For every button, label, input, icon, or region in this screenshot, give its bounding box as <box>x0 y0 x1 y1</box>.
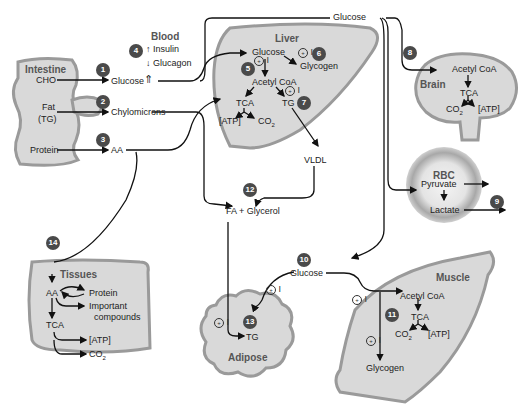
muscle-acetyl-coa: Acetyl CoA <box>400 292 445 301</box>
top-glucose-label: Glucose <box>333 13 366 22</box>
step-badge-11: 11 <box>385 308 399 322</box>
insulin-marker-muscle: + I <box>366 336 381 346</box>
intestine-label: Intestine <box>25 65 66 75</box>
tissues-tca: TCA <box>46 321 64 330</box>
liver-glycogen: Glycogen <box>300 62 338 71</box>
glucose-blood-label: Glucose <box>111 77 144 86</box>
cho-label: CHO <box>36 76 56 85</box>
step-badge-5: 5 <box>241 62 255 76</box>
plus-circle-icon: + <box>366 336 376 346</box>
up-arrow-icon: ↑ <box>146 44 151 54</box>
plus-circle-icon: + <box>214 318 224 328</box>
tissues-label: Tissues <box>60 270 97 280</box>
adipose-label: Adipose <box>228 353 267 363</box>
step-badge-6: 6 <box>312 47 326 61</box>
fa-glycerol-label: FA + Glycerol <box>226 207 280 216</box>
liver-atp: [ATP] <box>219 117 241 126</box>
tissues-co2: CO2 <box>89 350 106 361</box>
brain-tca: TCA <box>460 89 478 98</box>
insulin-marker-6: + I <box>298 48 313 58</box>
insulin-marker-adipose: + I <box>214 318 229 328</box>
step-badge-12: 12 <box>243 183 257 197</box>
step-badge-9: 9 <box>490 195 504 209</box>
liver-tg: TG <box>282 99 295 108</box>
down-arrow-icon: ↓ <box>146 58 151 68</box>
lactate-label: Lactate <box>430 206 460 215</box>
blood-label: Blood <box>151 32 179 42</box>
aa-label: AA <box>111 146 123 155</box>
tissues-compounds: compounds <box>94 313 141 322</box>
plus-circle-icon: + <box>298 48 308 58</box>
liver-tca: TCA <box>236 99 254 108</box>
plus-circle-icon: + <box>254 56 264 66</box>
step-badge-10: 10 <box>297 253 311 267</box>
plus-circle-icon: + <box>266 285 276 295</box>
chylomicrons-label: Chylomicrons <box>111 108 166 117</box>
adipose-tg: TG <box>246 333 259 342</box>
step-badge-14: 14 <box>46 236 60 250</box>
double-up-arrow-icon: ⇑ <box>144 74 153 85</box>
brain-acetyl-coa: Acetyl CoA <box>452 65 497 74</box>
pyruvate-label: Pyruvate <box>421 180 457 189</box>
muscle-atp: [ATP] <box>428 330 450 339</box>
vldl-label: VLDL <box>304 156 327 165</box>
step-badge-7: 7 <box>297 96 311 110</box>
muscle-glycogen: Glycogen <box>366 364 404 373</box>
muscle-co2: CO2 <box>395 330 412 341</box>
muscle-label: Muscle <box>436 273 470 283</box>
tg-label: (TG) <box>38 115 57 124</box>
muscle-tca: TCA <box>411 313 429 322</box>
liver-co2: CO2 <box>258 117 275 128</box>
step-badge-4: 4 <box>129 44 143 58</box>
fat-label: Fat <box>42 103 55 112</box>
tissues-aa: AA <box>46 289 58 298</box>
step-badge-8: 8 <box>403 46 417 60</box>
step-badge-13: 13 <box>243 315 257 329</box>
protein-label: Protein <box>30 146 59 155</box>
plus-circle-icon: + <box>352 295 362 305</box>
insulin-marker-adipose-top: + I <box>266 285 281 295</box>
brain-co2: CO2 <box>446 105 463 116</box>
liver-label: Liver <box>275 34 299 44</box>
tissues-important: Important <box>89 302 127 311</box>
brain-atp: [ATP] <box>478 105 500 114</box>
tissues-protein: Protein <box>89 289 118 298</box>
plus-circle-icon: + <box>285 86 295 96</box>
glucose-10-label: Glucose <box>290 269 323 278</box>
brain-label: Brain <box>420 80 446 90</box>
insulin-marker-muscle-top: + I <box>352 295 367 305</box>
step-badge-2: 2 <box>96 95 110 109</box>
insulin-label: ↑ Insulin <box>146 45 179 54</box>
glucagon-label: ↓ Glucagon <box>146 59 192 68</box>
step-badge-1: 1 <box>96 63 110 77</box>
step-badge-3: 3 <box>96 133 110 147</box>
insulin-marker-7: + I <box>285 86 300 96</box>
tissues-atp: [ATP] <box>89 336 111 345</box>
insulin-marker-5: + I <box>254 56 269 66</box>
